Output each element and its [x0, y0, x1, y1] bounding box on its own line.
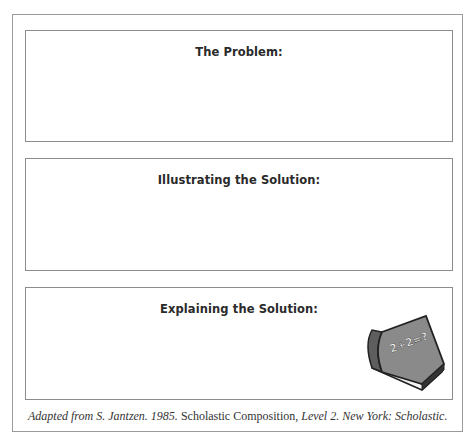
illustrating-solution-title: Illustrating the Solution:	[26, 173, 452, 187]
problem-box[interactable]: The Problem:	[25, 30, 453, 142]
problem-title: The Problem:	[26, 45, 452, 59]
citation-caption: Adapted from S. Jantzen. 1985. Scholasti…	[28, 409, 447, 424]
book-icon: 2+2=?	[360, 310, 452, 398]
illustrating-solution-box[interactable]: Illustrating the Solution:	[25, 158, 453, 271]
